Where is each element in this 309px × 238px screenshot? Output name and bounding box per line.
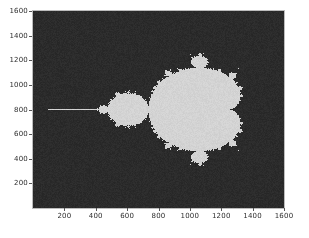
- axis-spine-top: [32, 10, 285, 11]
- y-tick-mark: [29, 159, 32, 160]
- figure: 2004006008001000120014001600200400600800…: [0, 0, 309, 238]
- x-tick-mark: [190, 208, 191, 211]
- x-tick-label: 1000: [181, 212, 200, 220]
- y-tick-mark: [29, 110, 32, 111]
- x-tick-mark: [127, 208, 128, 211]
- y-tick-mark: [29, 85, 32, 86]
- x-tick-label: 600: [120, 212, 134, 220]
- y-tick-label: 1000: [9, 81, 28, 89]
- x-tick-mark: [253, 208, 254, 211]
- x-tick-label: 1600: [275, 212, 294, 220]
- x-tick-mark: [159, 208, 160, 211]
- y-tick-mark: [29, 36, 32, 37]
- y-tick-mark: [29, 60, 32, 61]
- x-tick-mark: [284, 208, 285, 211]
- y-tick-label: 600: [14, 130, 28, 138]
- x-tick-label: 800: [152, 212, 166, 220]
- x-tick-mark: [64, 208, 65, 211]
- x-tick-label: 1400: [243, 212, 262, 220]
- y-tick-mark: [29, 134, 32, 135]
- x-tick-label: 400: [89, 212, 103, 220]
- mandelbrot-image: [33, 11, 284, 208]
- x-tick-label: 1200: [212, 212, 231, 220]
- axis-spine-right: [284, 10, 285, 209]
- y-tick-mark: [29, 183, 32, 184]
- y-tick-label: 1400: [9, 32, 28, 40]
- y-tick-label: 800: [14, 106, 28, 114]
- x-tick-label: 200: [57, 212, 71, 220]
- mandelbrot-axes: [33, 11, 284, 208]
- y-tick-label: 1600: [9, 7, 28, 15]
- y-tick-label: 400: [14, 155, 28, 163]
- y-tick-label: 200: [14, 179, 28, 187]
- x-tick-mark: [96, 208, 97, 211]
- axis-spine-left: [32, 10, 33, 209]
- x-tick-mark: [221, 208, 222, 211]
- y-tick-label: 1200: [9, 56, 28, 64]
- y-tick-mark: [29, 11, 32, 12]
